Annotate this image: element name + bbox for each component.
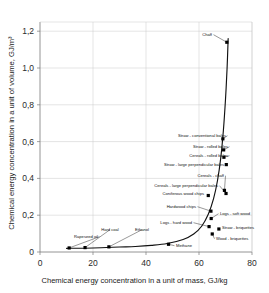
data-point-marker <box>68 246 71 249</box>
label-leader-line <box>224 176 225 191</box>
data-point-marker <box>167 243 170 246</box>
data-point-marker <box>211 232 214 235</box>
data-point-marker <box>83 246 86 249</box>
data-point-label: Coniferous wood chips <box>163 191 204 196</box>
chart-svg: 020406080 00,20,40,60,81,01,2 ChaffStraw… <box>0 0 269 293</box>
data-point-marker <box>225 163 228 166</box>
data-point-label: Logs - soft wood <box>220 211 251 216</box>
data-point-label: Straw - large perpendicular bales <box>164 162 224 167</box>
data-point-label: Logs - hard wood <box>160 220 192 225</box>
x-tick-label: 60 <box>194 258 204 268</box>
chart-figure: 020406080 00,20,40,60,81,01,2 ChaffStraw… <box>0 0 269 293</box>
data-point-label: Rapeseed oil <box>74 234 98 239</box>
y-tick-label: 0,6 <box>22 137 34 147</box>
y-tick-label: 0,4 <box>22 173 34 183</box>
y-axis-title: Chemical energy concentration in a unit … <box>7 36 16 230</box>
y-tick-label: 0,2 <box>22 210 34 220</box>
x-tick-label: 80 <box>247 258 257 268</box>
y-tick-label: 1,0 <box>22 63 34 73</box>
data-point-label: Hard coal <box>101 227 119 232</box>
data-point-label: Ethanol <box>135 227 149 232</box>
x-tick-label: 40 <box>141 258 151 268</box>
data-point-label: Chaff <box>202 32 213 37</box>
label-leader-line <box>198 207 211 211</box>
data-point-marker <box>224 192 227 195</box>
data-point-label: Hardwood chips <box>167 204 196 209</box>
data-point-marker <box>210 217 213 220</box>
data-point-label: Cereals - rolled bales <box>189 153 228 158</box>
label-leader-line <box>109 230 142 247</box>
data-point-marker <box>223 189 226 192</box>
label-leader-line <box>214 35 227 43</box>
data-point-label: Straw - rolled bales <box>193 144 228 149</box>
data-point-marker <box>209 210 212 213</box>
y-tick-label: 0 <box>29 247 34 257</box>
y-tick-label: 1,2 <box>22 26 34 36</box>
x-tick-label: 20 <box>88 258 98 268</box>
data-point-label: Straw - briquettes <box>222 225 254 230</box>
data-point-marker <box>217 227 220 230</box>
data-point-marker <box>225 41 228 44</box>
data-point-label: Straw - conventional bales <box>178 133 226 138</box>
x-tick-label: 0 <box>38 258 43 268</box>
x-axis-title: Chemical energy concentration in a unit … <box>41 276 227 285</box>
data-point-label: Cereals - chaff <box>197 173 224 178</box>
x-axis-ticks: 020406080 <box>38 252 257 268</box>
data-point-label: Cereals - large perpendicular bales <box>154 183 218 188</box>
data-point-label: Wood - briquettes <box>216 236 248 241</box>
data-point-marker <box>107 245 110 248</box>
data-point-marker <box>207 225 210 228</box>
data-point-marker <box>207 194 210 197</box>
data-point-label: Methane <box>176 243 193 248</box>
y-axis-ticks: 00,20,40,60,81,01,2 <box>22 26 40 257</box>
y-tick-label: 0,8 <box>22 100 34 110</box>
